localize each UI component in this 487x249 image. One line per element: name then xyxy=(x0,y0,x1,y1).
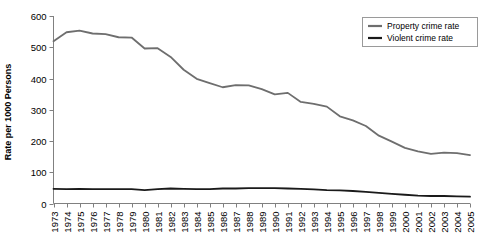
x-tick-label: 1980 xyxy=(140,212,151,233)
x-tick-label: 1999 xyxy=(387,212,398,233)
y-tick-label: 400 xyxy=(31,74,47,85)
x-tick-label: 2000 xyxy=(400,212,411,233)
y-tick-label: 100 xyxy=(31,167,47,178)
legend[interactable]: Property crime rate Violent crime rate xyxy=(363,18,478,47)
x-tick-label: 1988 xyxy=(244,212,255,233)
x-tick-label: 1997 xyxy=(361,212,372,233)
y-tick-label: 0 xyxy=(41,199,46,210)
x-tick-label: 1986 xyxy=(218,212,229,233)
x-tick-label: 1989 xyxy=(257,212,268,233)
legend-label-violent-crime-rate: Violent crime rate xyxy=(387,33,453,43)
x-tick-label: 2001 xyxy=(413,212,424,233)
y-tick-label: 300 xyxy=(31,105,47,116)
legend-label-property-crime-rate: Property crime rate xyxy=(387,21,460,31)
chart-canvas: Rate per 1000 Persons 600500400300200100… xyxy=(0,0,487,249)
x-tick-label: 1979 xyxy=(127,212,138,233)
x-tick-label: 1982 xyxy=(166,212,177,233)
crime-rate-line-chart: Rate per 1000 Persons 600500400300200100… xyxy=(0,0,487,249)
x-tick-label: 1998 xyxy=(374,212,385,233)
x-tick-label: 1996 xyxy=(348,212,359,233)
x-tick-label: 1973 xyxy=(49,212,60,233)
x-tick-label: 1992 xyxy=(296,212,307,233)
x-tick-label: 1981 xyxy=(153,212,164,233)
x-tick-label: 1974 xyxy=(62,212,73,233)
x-tick-label: 1990 xyxy=(270,212,281,233)
x-tick-label: 1993 xyxy=(309,212,320,233)
x-tick-label: 1995 xyxy=(335,212,346,233)
x-tick-label: 1985 xyxy=(205,212,216,233)
y-tick-label: 600 xyxy=(31,11,47,22)
x-tick-label: 2005 xyxy=(465,212,476,233)
x-tick-label: 1994 xyxy=(322,212,333,233)
x-tick-label: 1984 xyxy=(192,212,203,233)
y-axis-title: Rate per 1000 Persons xyxy=(3,64,13,161)
y-tick-label: 200 xyxy=(31,136,47,147)
x-tick-label: 1976 xyxy=(88,212,99,233)
x-tick-label: 2003 xyxy=(439,212,450,233)
x-tick-label: 1978 xyxy=(114,212,125,233)
x-tick-label: 1983 xyxy=(179,212,190,233)
y-tick-label: 500 xyxy=(31,42,47,53)
x-tick-label: 1987 xyxy=(231,212,242,233)
x-tick-label: 1975 xyxy=(75,212,86,233)
x-tick-label: 2002 xyxy=(426,212,437,233)
x-tick-label: 1977 xyxy=(101,212,112,233)
x-tick-label: 2004 xyxy=(452,212,463,233)
x-tick-label: 1991 xyxy=(283,212,294,233)
